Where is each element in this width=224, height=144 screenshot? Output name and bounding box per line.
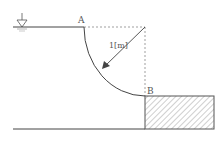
label-point-b: B <box>147 86 154 96</box>
hatched-block <box>145 96 214 129</box>
gate-arc <box>84 27 145 96</box>
label-point-a: A <box>77 15 85 25</box>
label-radius: 1[m] <box>109 41 128 50</box>
diagram-canvas: A B 1[m] <box>0 0 224 144</box>
water-surface-icon <box>17 13 27 31</box>
